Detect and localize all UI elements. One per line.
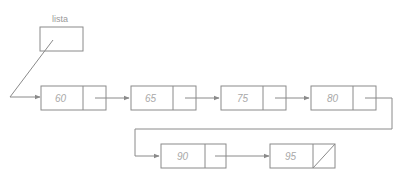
list-node-tail: 95	[270, 144, 335, 168]
node-box	[270, 144, 335, 168]
linked-list-diagram: lista 60 65 75 80 90 95	[0, 0, 400, 178]
head-label: lista	[52, 14, 68, 24]
head-pointer-arrow	[10, 40, 53, 97]
node-value: 65	[145, 93, 157, 104]
node-value: 95	[285, 151, 297, 162]
node-value: 80	[327, 93, 339, 104]
node-value: 90	[177, 151, 189, 162]
head-pointer: lista	[10, 14, 83, 97]
node-value: 60	[55, 93, 67, 104]
head-pointer-box	[40, 27, 83, 51]
node-value: 75	[237, 93, 249, 104]
null-pointer-slash	[313, 144, 335, 168]
